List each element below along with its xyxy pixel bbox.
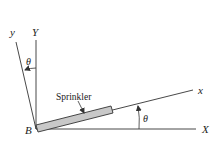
angle-arc-top [25, 68, 36, 70]
fixed-x-label: X [201, 123, 210, 135]
sprinkler-label: Sprinkler [56, 92, 92, 102]
rotated-y-label: y [9, 26, 15, 38]
sprinkler-leader-arrow [78, 101, 84, 113]
angle-arc-right [138, 106, 139, 129]
origin-label: B [25, 124, 32, 136]
sprinkler-bar [36, 106, 113, 132]
angle-top-label: θ [26, 56, 31, 67]
fixed-y-label: Y [32, 26, 40, 38]
angle-right-label: θ [143, 113, 148, 124]
rotated-x-label: x [197, 84, 203, 96]
sprinkler-diagram: y Y θ Sprinkler B θ x X [0, 0, 217, 141]
